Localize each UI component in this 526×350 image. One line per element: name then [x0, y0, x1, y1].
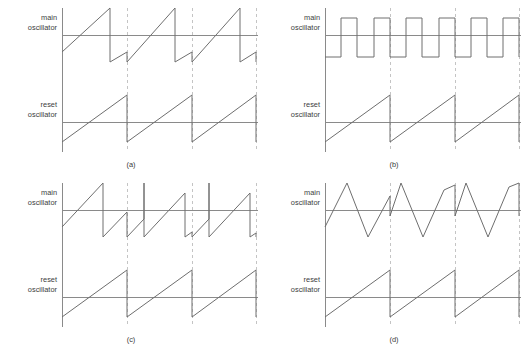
panel-b-main-waveform: [325, 18, 519, 57]
panel-a-reset-label-line1: reset: [41, 100, 57, 109]
panel-c-reset-waveform: [62, 270, 256, 317]
panel-a-reset-label-line2: oscillator: [28, 110, 58, 119]
panel-d-main-label-line1: main: [304, 188, 320, 197]
panel-c-main-label-line1: main: [41, 188, 57, 197]
panel-b: main oscillator reset oscillator (b): [263, 0, 526, 175]
panel-c-reset-label-line2: oscillator: [28, 285, 58, 294]
panel-d-reset-waveform: [325, 270, 519, 317]
panel-d-reset-label-line2: oscillator: [291, 285, 321, 294]
panel-c-caption: (c): [127, 335, 136, 344]
panel-b-reset-label-line1: reset: [304, 100, 320, 109]
panel-b-reset-label-line2: oscillator: [291, 110, 321, 119]
panel-c-main-label-line2: oscillator: [28, 198, 58, 207]
oscillator-sync-figure: main oscillator reset oscillator (a) mai…: [0, 0, 526, 350]
panel-a-main-label-line1: main: [41, 13, 57, 22]
panel-b-caption: (b): [389, 160, 398, 169]
panel-d: main oscillator reset oscillator (d): [263, 175, 526, 350]
panel-a-caption: (a): [126, 160, 135, 169]
panel-b-reset-waveform: [325, 95, 519, 142]
panel-b-main-label-line1: main: [304, 13, 320, 22]
panel-a-main-label-line2: oscillator: [28, 23, 58, 32]
panel-a: main oscillator reset oscillator (a): [0, 0, 263, 175]
panel-d-reset-label-line1: reset: [304, 275, 320, 284]
panel-c: main oscillator reset oscillator (c): [0, 175, 263, 350]
panel-d-caption: (d): [389, 335, 398, 344]
panel-b-main-label-line2: oscillator: [291, 23, 321, 32]
panel-c-reset-label-line1: reset: [41, 275, 57, 284]
panel-a-reset-waveform: [62, 95, 256, 142]
panel-d-main-label-line2: oscillator: [291, 198, 321, 207]
